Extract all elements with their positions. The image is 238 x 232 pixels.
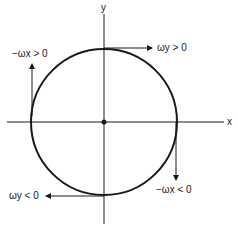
label-neg-wx-negative: −ωx < 0 — [156, 184, 192, 195]
x-axis-label: x — [227, 116, 232, 127]
label-wy-positive: ωy > 0 — [157, 42, 187, 53]
y-axis-label: y — [101, 2, 106, 13]
center-point — [102, 120, 107, 125]
label-neg-wx-positive: −ωx > 0 — [12, 48, 48, 59]
label-wy-negative: ωy < 0 — [9, 190, 39, 201]
diagram-canvas: x y ωy > 0 −ωx > 0 −ωx < 0 ωy < 0 — [0, 0, 238, 232]
